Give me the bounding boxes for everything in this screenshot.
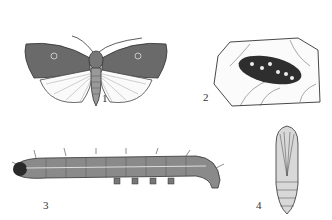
illustration-plate: 1 2 xyxy=(0,0,332,220)
caterpillar-icon xyxy=(6,148,228,196)
figure-label-4: 4 xyxy=(256,199,262,211)
figure-label-1: 1 xyxy=(102,92,108,104)
leaf-egg-mass-icon xyxy=(210,36,322,108)
figure-pupa xyxy=(272,124,302,216)
pupa-icon xyxy=(272,124,302,216)
figure-larva xyxy=(6,148,228,196)
figure-moth xyxy=(20,18,170,108)
moth-icon xyxy=(20,18,170,108)
figure-label-2: 2 xyxy=(203,91,209,103)
figure-egg-mass xyxy=(210,36,322,108)
figure-label-3: 3 xyxy=(43,199,49,211)
